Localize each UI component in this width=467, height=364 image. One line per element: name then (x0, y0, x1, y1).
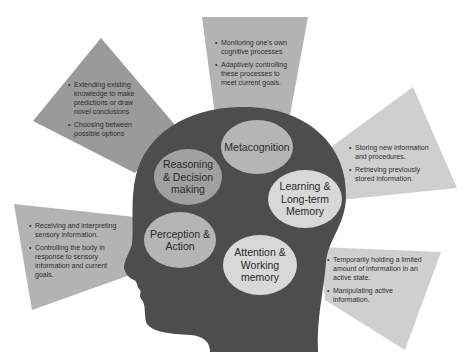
bubble-learning: Learning & Long-term Memory (273, 170, 337, 228)
panel-perception: Receiving and interpreting sensory infor… (29, 221, 117, 283)
panel-item: Controlling the body in response to sens… (29, 243, 117, 279)
bubble-metacognition: Metacognition (221, 120, 293, 174)
panel-item: Temporarily holding a limited amount of … (327, 255, 425, 282)
panel-item: Receiving and interpreting sensory infor… (29, 221, 117, 239)
bubble-perception: Perception & Action (148, 212, 212, 268)
panel-reasoning: Extending existing knowledge to make pre… (68, 80, 140, 142)
panel-item: Monitoring one's own cognitive processes (215, 38, 297, 56)
bubble-attention: Attention & Working memory (230, 235, 290, 295)
panel-item: Manipulating active information. (327, 286, 425, 304)
panel-learning: Storing new information and procedures. … (349, 143, 431, 187)
panel-item: Extending existing knowledge to make pre… (68, 80, 140, 116)
panel-item: Choosing between possible options (68, 120, 140, 138)
panel-item: Retrieving previously stored information… (349, 165, 431, 183)
bubble-reasoning: Reasoning & Decision making (158, 149, 218, 205)
panel-item: Adaptively controlling these processes t… (215, 60, 297, 87)
panel-metacognition: Monitoring one's own cognitive processes… (215, 38, 297, 91)
panel-item: Storing new information and procedures. (349, 143, 431, 161)
panel-attention: Temporarily holding a limited amount of … (327, 255, 425, 308)
